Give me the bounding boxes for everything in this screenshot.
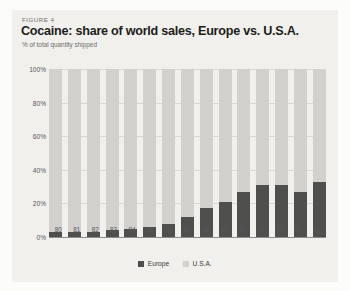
legend-label: Europe [148,260,169,267]
x-tick-label: 82 [89,226,102,233]
bar-group [219,69,232,237]
bar-segment-usa [124,69,137,229]
y-tick-label: 0% [22,234,46,241]
y-tick-label: 80% [22,99,46,106]
x-tick-label: 92 [273,226,286,233]
bar-segment-usa [237,69,250,192]
x-tick-label: 84 [126,226,139,233]
bar-segment-usa [275,69,288,185]
bar-segment-usa [313,69,326,182]
y-tick-label: 60% [22,133,46,140]
bar-segment-usa [200,69,213,208]
legend-label: U.S.A. [193,260,212,267]
bar-segment-usa [68,69,81,232]
y-tick-label: 100% [22,66,46,73]
x-tick-label: 87 [181,226,194,233]
bar-segment-usa [256,69,269,185]
legend-entry: U.S.A. [183,260,212,267]
bars-layer [49,69,326,237]
figure-card: FIGURE 4 Cocaine: share of world sales, … [12,10,338,282]
bar-group [313,69,326,237]
usa-swatch [183,261,189,267]
europe-swatch [138,261,144,267]
bar-segment-usa [162,69,175,224]
bar-group [275,69,288,237]
figure-kicker: FIGURE 4 [22,16,55,23]
x-tick-label: 90 [236,226,249,233]
bar-group [106,69,119,237]
bar-group [294,69,307,237]
x-tick-label: 83 [107,226,120,233]
bar-group [162,69,175,237]
x-tick-label: 88 [199,226,212,233]
bar-group [256,69,269,237]
bar-group [68,69,81,237]
bar-segment-usa [219,69,232,202]
chart-plot-frame: 0%20%40%60%80%100% 808182838485868788899… [22,54,328,254]
chart-legend: EuropeU.S.A. [12,260,338,267]
scanned-page-background: FIGURE 4 Cocaine: share of world sales, … [0,0,350,291]
figure-subtitle: % of total quantity shipped [22,41,97,48]
bar-segment-usa [143,69,156,227]
y-tick-label: 20% [22,200,46,207]
x-tick-label: 91 [255,226,268,233]
bar-group [200,69,213,237]
legend-entry: Europe [138,260,169,267]
bar-group [237,69,250,237]
bar-segment-usa [49,69,62,232]
x-tick-label: 94 [310,226,323,233]
gridline-0 [49,237,326,238]
bar-group [124,69,137,237]
x-tick-label: 85 [144,226,157,233]
x-tick-label: 93 [292,226,305,233]
page-title: Cocaine: share of world sales, Europe vs… [21,24,299,38]
bar-group [181,69,194,237]
x-tick-label: 80 [52,226,65,233]
bar-segment-usa [106,69,119,230]
bar-segment-usa [294,69,307,192]
bar-group [143,69,156,237]
bar-segment-usa [181,69,194,217]
x-tick-label: 89 [218,226,231,233]
bar-segment-usa [87,69,100,232]
bar-group [49,69,62,237]
x-tick-label: 81 [70,226,83,233]
y-tick-label: 40% [22,166,46,173]
x-tick-label: 86 [163,226,176,233]
bar-group [87,69,100,237]
